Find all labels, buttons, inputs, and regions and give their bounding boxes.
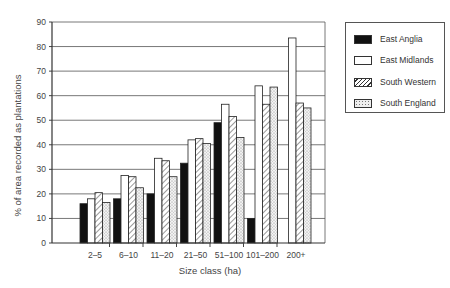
bar-south-western: [95, 193, 103, 243]
stippled-swatch-icon: [354, 99, 372, 108]
legend-label: East Anglia: [380, 34, 423, 44]
legend-label: South England: [380, 98, 436, 108]
x-tick-label: 200+: [286, 250, 305, 260]
bar-south-western: [196, 139, 204, 243]
white-swatch-icon: [354, 56, 372, 65]
legend-item-south-england: South England: [354, 97, 436, 109]
y-tick-label: 80: [37, 42, 47, 52]
bar-south-western: [162, 161, 170, 243]
y-tick-label: 70: [37, 66, 47, 76]
bar-south-western: [229, 117, 237, 243]
bar-south-england: [136, 188, 144, 243]
bar-east-anglia: [80, 204, 88, 243]
hatched-swatch-icon: [354, 78, 372, 87]
bars: [80, 38, 311, 243]
legend-item-east-anglia: East Anglia: [354, 33, 423, 45]
bar-east-midlands: [155, 158, 163, 243]
bar-south-england: [237, 137, 245, 243]
bar-east-midlands: [188, 140, 196, 243]
legend-item-east-midlands: East Midlands: [354, 54, 433, 66]
bar-east-anglia: [147, 194, 155, 243]
y-tick-label: 90: [37, 17, 47, 27]
bar-south-england: [103, 202, 111, 243]
bar-east-anglia: [181, 163, 189, 243]
bar-south-england: [170, 177, 178, 243]
bar-south-england: [304, 108, 312, 243]
bar-east-anglia: [114, 199, 122, 243]
y-tick-label: 20: [37, 189, 47, 199]
bar-east-midlands: [255, 86, 263, 243]
bar-south-western: [263, 104, 271, 243]
x-tick-label: 6–10: [119, 250, 138, 260]
x-tick-label: 51–100: [215, 250, 244, 260]
bar-east-anglia: [214, 123, 222, 243]
bar-east-midlands: [222, 104, 230, 243]
x-tick-label: 11–20: [150, 250, 173, 260]
bar-east-midlands: [289, 38, 297, 243]
bar-east-midlands: [88, 199, 96, 243]
x-tick-label: 101–200: [246, 250, 279, 260]
x-tick-label: 21–50: [184, 250, 208, 260]
y-tick-label: 50: [37, 115, 47, 125]
y-axis-label: % of area recorded as plantations: [12, 51, 23, 241]
y-tick-label: 60: [37, 91, 47, 101]
bar-south-western: [296, 103, 304, 243]
solid-swatch-icon: [354, 35, 372, 44]
bar-south-england: [270, 87, 278, 243]
y-tick-label: 10: [37, 213, 47, 223]
bar-east-midlands: [121, 175, 129, 243]
bar-east-anglia: [248, 218, 256, 243]
x-axis-label: Size class (ha): [150, 265, 270, 276]
y-tick-label: 0: [41, 238, 46, 248]
x-tick-label: 2–5: [88, 250, 102, 260]
legend-label: South Western: [380, 77, 436, 87]
y-tick-label: 30: [37, 164, 47, 174]
legend: East Anglia East Midlands South Western …: [345, 22, 445, 113]
legend-item-south-western: South Western: [354, 76, 436, 88]
bar-south-western: [129, 177, 137, 243]
legend-label: East Midlands: [380, 55, 433, 65]
y-tick-label: 40: [37, 140, 47, 150]
bar-south-england: [203, 144, 211, 243]
